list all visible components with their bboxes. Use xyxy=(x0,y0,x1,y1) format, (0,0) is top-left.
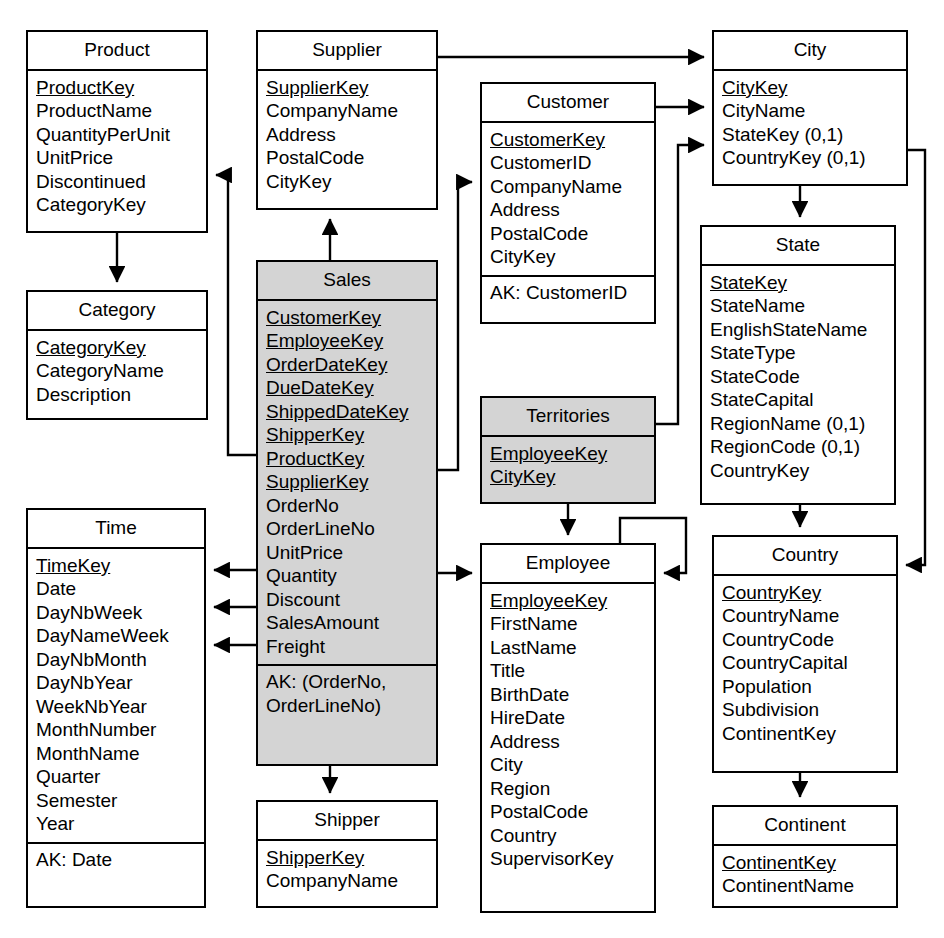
attribute: SupervisorKey xyxy=(490,847,654,871)
entity-attributes-product: ProductKeyProductNameQuantityPerUnitUnit… xyxy=(28,71,206,223)
attribute: StateKey (0,1) xyxy=(722,123,906,147)
primary-key-attribute: OrderDateKey xyxy=(266,353,436,377)
rel-city-country xyxy=(906,150,925,565)
entity-shipper[interactable]: ShipperShipperKeyCompanyName xyxy=(256,800,438,908)
attribute: Title xyxy=(490,659,654,683)
entity-title-shipper: Shipper xyxy=(258,802,436,841)
attribute: CategoryName xyxy=(36,359,206,383)
entity-state[interactable]: StateStateKeyStateNameEnglishStateNameSt… xyxy=(700,225,896,505)
entity-attributes-supplier: SupplierKeyCompanyNameAddressPostalCodeC… xyxy=(258,71,436,200)
attribute: Discount xyxy=(266,588,436,612)
alternate-key-section-customer: AK: CustomerID xyxy=(482,275,654,310)
attribute: CategoryKey xyxy=(36,193,206,217)
primary-key-attribute: CityKey xyxy=(490,465,654,489)
entity-territories[interactable]: TerritoriesEmployeeKeyCityKey xyxy=(480,396,656,504)
primary-key-attribute: EmployeeKey xyxy=(266,329,436,353)
rel-territories-city xyxy=(656,145,704,424)
primary-key-attribute: ProductKey xyxy=(36,76,206,100)
attribute: Address xyxy=(490,198,654,222)
attribute: Freight xyxy=(266,635,436,659)
alternate-key-section-time: AK: Date xyxy=(28,842,204,877)
attribute: DayNameWeek xyxy=(36,624,204,648)
entity-product[interactable]: ProductProductKeyProductNameQuantityPerU… xyxy=(26,30,208,233)
attribute: LastName xyxy=(490,636,654,660)
attribute: Semester xyxy=(36,789,204,813)
entity-title-time: Time xyxy=(28,510,204,549)
attribute: MonthNumber xyxy=(36,718,204,742)
attribute: Discontinued xyxy=(36,170,206,194)
primary-key-attribute: CustomerKey xyxy=(266,306,436,330)
entity-attributes-sales: CustomerKeyEmployeeKeyOrderDateKeyDueDat… xyxy=(258,301,436,665)
primary-key-attribute: SupplierKey xyxy=(266,470,436,494)
attribute: RegionName (0,1) xyxy=(710,412,894,436)
attribute: DayNbWeek xyxy=(36,601,204,625)
entity-employee[interactable]: EmployeeEmployeeKeyFirstNameLastNameTitl… xyxy=(480,543,656,913)
entity-customer[interactable]: CustomerCustomerKeyCustomerIDCompanyName… xyxy=(480,82,656,324)
attribute: Date xyxy=(36,577,204,601)
entity-attributes-territories: EmployeeKeyCityKey xyxy=(482,437,654,495)
attribute: FirstName xyxy=(490,612,654,636)
attribute: Population xyxy=(722,675,896,699)
entity-category[interactable]: CategoryCategoryKeyCategoryNameDescripti… xyxy=(26,290,208,420)
attribute: CompanyName xyxy=(490,175,654,199)
alternate-key-line: AK: (OrderNo, xyxy=(266,670,436,694)
entity-title-supplier: Supplier xyxy=(258,32,436,71)
entity-title-state: State xyxy=(702,227,894,266)
attribute: ContinentName xyxy=(722,874,896,898)
attribute: MonthName xyxy=(36,742,204,766)
attribute: StateType xyxy=(710,341,894,365)
attribute: SalesAmount xyxy=(266,611,436,635)
entity-attributes-country: CountryKeyCountryNameCountryCodeCountryC… xyxy=(714,576,896,752)
entity-title-city: City xyxy=(714,32,906,71)
attribute: CityKey xyxy=(266,170,436,194)
entity-sales[interactable]: SalesCustomerKeyEmployeeKeyOrderDateKeyD… xyxy=(256,260,438,766)
attribute: QuantityPerUnit xyxy=(36,123,206,147)
attribute: City xyxy=(490,753,654,777)
primary-key-attribute: SupplierKey xyxy=(266,76,436,100)
primary-key-attribute: TimeKey xyxy=(36,554,204,578)
attribute: CompanyName xyxy=(266,99,436,123)
entity-city[interactable]: CityCityKeyCityNameStateKey (0,1)Country… xyxy=(712,30,908,186)
entity-title-customer: Customer xyxy=(482,84,654,123)
attribute: CountryKey xyxy=(710,459,894,483)
primary-key-attribute: CountryKey xyxy=(722,581,896,605)
entity-supplier[interactable]: SupplierSupplierKeyCompanyNameAddressPos… xyxy=(256,30,438,210)
alternate-key-line: AK: CustomerID xyxy=(490,281,654,305)
entity-continent[interactable]: ContinentContinentKeyContinentName xyxy=(712,805,898,908)
primary-key-attribute: ProductKey xyxy=(266,447,436,471)
attribute: Country xyxy=(490,824,654,848)
entity-attributes-continent: ContinentKeyContinentName xyxy=(714,846,896,904)
attribute: PostalCode xyxy=(490,222,654,246)
attribute: Year xyxy=(36,812,204,836)
entity-attributes-time: TimeKeyDateDayNbWeekDayNameWeekDayNbMont… xyxy=(28,549,204,842)
entity-time[interactable]: TimeTimeKeyDateDayNbWeekDayNameWeekDayNb… xyxy=(26,508,206,908)
entity-title-employee: Employee xyxy=(482,545,654,584)
attribute: BirthDate xyxy=(490,683,654,707)
entity-title-continent: Continent xyxy=(714,807,896,846)
attribute: DayNbYear xyxy=(36,671,204,695)
primary-key-attribute: EmployeeKey xyxy=(490,589,654,613)
attribute: UnitPrice xyxy=(36,146,206,170)
entity-attributes-category: CategoryKeyCategoryNameDescription xyxy=(28,331,206,413)
attribute: CountryKey (0,1) xyxy=(722,146,906,170)
attribute: RegionCode (0,1) xyxy=(710,435,894,459)
primary-key-attribute: ShippedDateKey xyxy=(266,400,436,424)
attribute: PostalCode xyxy=(266,146,436,170)
entity-country[interactable]: CountryCountryKeyCountryNameCountryCodeC… xyxy=(712,535,898,773)
alternate-key-line: AK: Date xyxy=(36,848,204,872)
primary-key-attribute: DueDateKey xyxy=(266,376,436,400)
primary-key-attribute: EmployeeKey xyxy=(490,442,654,466)
primary-key-attribute: StateKey xyxy=(710,271,894,295)
entity-attributes-customer: CustomerKeyCustomerIDCompanyNameAddressP… xyxy=(482,123,654,275)
primary-key-attribute: CustomerKey xyxy=(490,128,654,152)
primary-key-attribute: ContinentKey xyxy=(722,851,896,875)
primary-key-attribute: CityKey xyxy=(722,76,906,100)
entity-attributes-shipper: ShipperKeyCompanyName xyxy=(258,841,436,899)
attribute: Quarter xyxy=(36,765,204,789)
er-diagram-canvas: ProductProductKeyProductNameQuantityPerU… xyxy=(0,0,944,938)
attribute: Region xyxy=(490,777,654,801)
attribute: PostalCode xyxy=(490,800,654,824)
attribute: CountryName xyxy=(722,604,896,628)
entity-attributes-city: CityKeyCityNameStateKey (0,1)CountryKey … xyxy=(714,71,906,176)
rel-sales-product xyxy=(216,175,256,455)
